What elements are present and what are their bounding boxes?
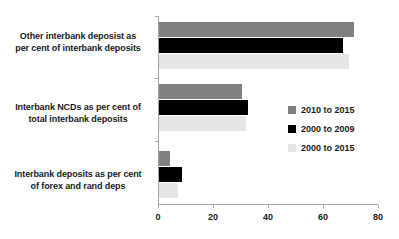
- legend-label-1: 2000 to 2009: [301, 124, 355, 134]
- bar-1-1[interactable]: [159, 100, 248, 115]
- legend-label-0: 2010 to 2015: [301, 105, 355, 115]
- category-label-2: Interbank deposits as per cent of forex …: [2, 168, 154, 192]
- x-axis-tick: [378, 205, 379, 208]
- legend-item-1[interactable]: 2000 to 2009: [288, 119, 355, 138]
- y-axis-tick: [155, 16, 158, 17]
- category-label-0-line-0: Other interbank deposist as: [2, 30, 154, 42]
- x-axis-tick-label: 60: [308, 212, 338, 222]
- category-label-0: Other interbank deposist as per cent of …: [2, 30, 154, 54]
- x-axis-tick-label: 80: [363, 212, 393, 222]
- x-axis-tick: [323, 205, 324, 208]
- bar-1-0[interactable]: [159, 84, 242, 99]
- bar-0-2[interactable]: [159, 54, 349, 69]
- bar-chart: Other interbank deposist as per cent of …: [0, 0, 399, 239]
- x-axis-tick: [158, 205, 159, 208]
- category-label-2-line-0: Interbank deposits as per cent: [2, 168, 154, 180]
- legend-item-0[interactable]: 2010 to 2015: [288, 100, 355, 119]
- bar-1-2[interactable]: [159, 116, 246, 131]
- legend-label-2: 2000 to 2015: [301, 143, 355, 153]
- bar-0-1[interactable]: [159, 38, 343, 53]
- category-label-1: Interbank NCDs as per cent of total inte…: [2, 101, 154, 125]
- category-label-1-line-0: Interbank NCDs as per cent of: [2, 101, 154, 113]
- legend-item-2[interactable]: 2000 to 2015: [288, 138, 355, 157]
- legend: 2010 to 2015 2000 to 2009 2000 to 2015: [288, 100, 355, 157]
- bar-2-2[interactable]: [159, 183, 178, 198]
- x-axis-tick-label: 0: [143, 212, 173, 222]
- bar-2-0[interactable]: [159, 151, 170, 166]
- legend-swatch-icon-1: [288, 125, 296, 133]
- x-axis-tick-label: 40: [253, 212, 283, 222]
- category-label-1-line-1: total interbank deposits: [2, 113, 154, 125]
- bar-0-0[interactable]: [159, 22, 354, 37]
- legend-swatch-icon-2: [288, 144, 296, 152]
- y-axis-tick: [155, 78, 158, 79]
- y-axis-tick: [155, 141, 158, 142]
- x-axis-tick: [268, 205, 269, 208]
- category-label-2-line-1: of forex and rand deps: [2, 180, 154, 192]
- category-label-0-line-1: per cent of interbank deposits: [2, 42, 154, 54]
- bar-2-1[interactable]: [159, 167, 182, 182]
- x-axis-tick-label: 20: [198, 212, 228, 222]
- legend-swatch-icon-0: [288, 106, 296, 114]
- x-axis-tick: [213, 205, 214, 208]
